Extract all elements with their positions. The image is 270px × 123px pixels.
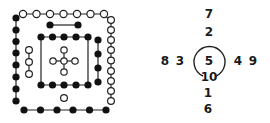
he-tu-diagram: 7 2 8 3 5 4 9 10 1 6	[0, 0, 270, 123]
number-right-outer: 9	[249, 54, 257, 68]
number-bottom-inner: 1	[204, 86, 212, 100]
number-left-outer: 8	[161, 54, 169, 68]
number-diagram: 7 2 8 3 5 4 9 10 1 6	[161, 7, 257, 116]
number-center-bottom: 10	[201, 70, 218, 84]
number-top-inner: 2	[205, 25, 213, 39]
number-center: 5	[205, 54, 213, 68]
dot-diagram	[12, 10, 114, 113]
number-top-outer: 7	[205, 7, 213, 21]
top-white-row	[19, 10, 107, 17]
number-left-inner: 3	[176, 54, 184, 68]
center-white-cross	[50, 47, 78, 75]
bottom-single-white	[61, 95, 68, 102]
right-white-column	[108, 17, 115, 105]
number-right-inner: 4	[234, 54, 242, 68]
number-bottom-outer: 6	[204, 102, 212, 116]
left-inner-white-column	[26, 47, 33, 78]
